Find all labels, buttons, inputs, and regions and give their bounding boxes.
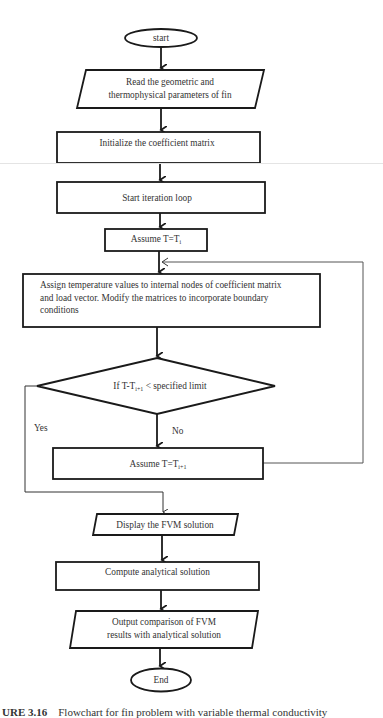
yes-edge-label: Yes [34,422,48,435]
assume-ti-sub: i [180,239,182,245]
output-comparison-label: Output comparison of FVM results with an… [72,616,256,641]
no-edge-label: No [172,425,183,438]
init-matrix-label: Initialize the coefficient matrix [57,137,257,150]
figure-number: URE 3.16 [2,706,47,718]
assume-ti-label: Assume T=Ti [105,233,207,249]
assume-ti1-sub: i+1 [178,464,186,470]
assume-ti1-prefix: Assume T=T [130,459,179,469]
compute-analytical-label: Compute analytical solution [56,566,259,579]
assign-temps-line-1: Assign temperature values to internal no… [40,279,315,292]
decision-label: If T-Ti+1 < specified limit [70,380,250,396]
assign-temps-line-3: conditions [40,304,315,317]
output-comparison-line-2: results with analytical solution [72,629,256,642]
assign-temps-label: Assign temperature values to internal no… [40,279,315,317]
scan-fold-line [0,163,383,164]
assume-ti1-label: Assume T=Ti+1 [53,458,263,474]
assign-temps-line-2: and load vector. Modify the matrices to … [40,292,315,305]
read-params-line-1: Read the geometric and [80,76,260,89]
assume-ti-prefix: Assume T=T [131,234,180,244]
output-comparison-line-1: Output comparison of FVM [72,616,256,629]
decision-suffix: < specified limit [143,381,206,391]
figure-caption-text: Flowchart for fin problem with variable … [58,706,327,718]
read-params-line-2: thermophysical parameters of fin [80,89,260,102]
read-params-label: Read the geometric and thermophysical pa… [80,76,260,101]
decision-prefix: If T-T [113,381,135,391]
start-loop-label: Start iteration loop [57,192,257,205]
start-label: start [125,32,197,45]
display-fvm-label: Display the FVM solution [95,519,235,532]
figure-caption: URE 3.16 Flowchart for fin problem with … [2,706,327,718]
end-label: End [131,674,191,687]
